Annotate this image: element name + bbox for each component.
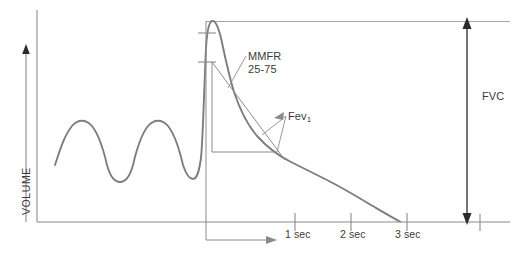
fev1-arrow-head-icon	[274, 112, 284, 120]
time-axis-arrow	[206, 222, 277, 244]
spirogram-plot	[0, 0, 515, 265]
fev1-hypotenuse	[212, 62, 285, 160]
plot-frame	[37, 10, 510, 222]
time-arrow-path	[206, 222, 268, 240]
fvc-arrow-head-bottom-icon	[463, 213, 472, 225]
spirometry-figure: VOLUME MMFR 25-75 Fev1 FVC 1 sec 2 sec 3…	[0, 0, 515, 265]
fvc-measure-arrow	[463, 17, 472, 225]
fev1-label-text: Fev	[288, 110, 307, 122]
mmfr-leader-line	[228, 56, 246, 88]
x-tick-label-3-sec: 3 sec	[395, 228, 421, 240]
fev1-annotation: Fev1	[288, 110, 311, 123]
fev1-triangle	[212, 62, 285, 160]
fev1-leader-lower	[277, 116, 286, 152]
volume-time-curve	[55, 21, 400, 222]
fvc-annotation: FVC	[482, 90, 504, 103]
y-axis-label: VOLUME	[20, 167, 32, 215]
fvc-arrow-head-top-icon	[463, 17, 472, 29]
y-axis-arrow-icon	[22, 44, 30, 54]
mmfr-label-line1: MMFR	[248, 50, 281, 62]
mmfr-annotation: MMFR 25-75	[248, 50, 281, 76]
mmfr-label-line2: 25-75	[248, 63, 281, 76]
x-tick-label-2-sec: 2 sec	[340, 228, 366, 240]
fev1-label-subscript: 1	[307, 115, 312, 124]
x-tick-label-1-sec: 1 sec	[285, 228, 311, 240]
time-arrow-head-icon	[266, 236, 277, 244]
